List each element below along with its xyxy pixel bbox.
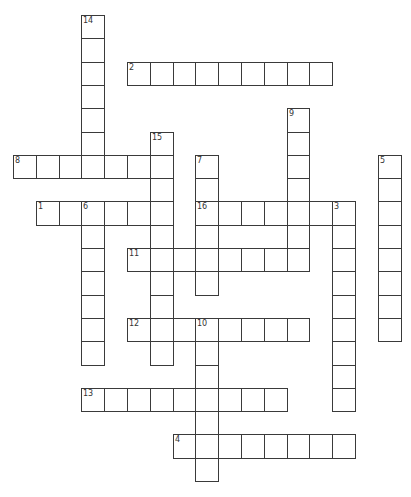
crossword-cell[interactable] [150,155,174,179]
crossword-cell[interactable] [264,201,288,226]
crossword-cell[interactable] [264,318,288,342]
crossword-cell[interactable] [332,365,356,389]
crossword-cell[interactable] [81,108,105,133]
crossword-cell[interactable]: 8 [13,155,37,179]
crossword-cell[interactable]: 14 [81,15,105,39]
crossword-cell[interactable] [173,62,196,86]
crossword-cell[interactable] [332,295,356,319]
crossword-cell[interactable] [309,434,333,459]
crossword-cell[interactable] [332,341,356,366]
crossword-cell[interactable] [127,201,151,226]
crossword-cell[interactable]: 4 [173,434,196,459]
crossword-cell[interactable] [218,318,242,342]
crossword-cell[interactable] [104,201,128,226]
crossword-cell[interactable] [173,248,196,272]
crossword-cell[interactable] [332,248,356,272]
crossword-cell[interactable] [104,388,128,412]
crossword-cell[interactable] [287,248,310,272]
crossword-cell[interactable] [287,132,310,156]
crossword-cell[interactable] [287,201,310,226]
crossword-cell[interactable] [378,318,402,342]
crossword-cell[interactable] [264,434,288,459]
crossword-cell[interactable]: 5 [378,155,402,179]
crossword-cell[interactable] [195,365,219,389]
crossword-cell[interactable] [150,248,174,272]
crossword-cell[interactable] [173,318,196,342]
crossword-cell[interactable] [287,62,310,86]
crossword-cell[interactable] [81,38,105,63]
crossword-cell[interactable] [218,201,242,226]
crossword-cell[interactable]: 1 [36,201,60,226]
crossword-cell[interactable] [150,341,174,366]
crossword-cell[interactable] [218,248,242,272]
crossword-cell[interactable] [332,434,356,459]
crossword-cell[interactable]: 6 [81,201,105,226]
crossword-cell[interactable] [150,295,174,319]
crossword-cell[interactable] [195,225,219,249]
crossword-cell[interactable] [378,178,402,202]
crossword-cell[interactable] [241,434,265,459]
crossword-cell[interactable] [287,434,310,459]
crossword-cell[interactable] [150,225,174,249]
crossword-cell[interactable] [332,271,356,296]
crossword-cell[interactable] [195,271,219,296]
crossword-cell[interactable] [287,155,310,179]
crossword-cell[interactable] [195,411,219,435]
crossword-cell[interactable] [241,318,265,342]
crossword-cell[interactable] [332,318,356,342]
crossword-cell[interactable] [264,388,288,412]
crossword-cell[interactable] [378,248,402,272]
crossword-cell[interactable] [264,62,288,86]
crossword-cell[interactable] [264,248,288,272]
crossword-cell[interactable] [287,225,310,249]
crossword-cell[interactable] [59,201,82,226]
crossword-cell[interactable] [195,388,219,412]
crossword-cell[interactable] [59,155,82,179]
crossword-cell[interactable] [287,318,310,342]
crossword-cell[interactable] [378,271,402,296]
crossword-cell[interactable] [195,341,219,366]
crossword-cell[interactable]: 9 [287,108,310,133]
crossword-cell[interactable] [218,434,242,459]
crossword-cell[interactable] [150,318,174,342]
crossword-cell[interactable] [195,434,219,459]
crossword-cell[interactable] [218,388,242,412]
crossword-cell[interactable] [127,388,151,412]
crossword-cell[interactable] [81,295,105,319]
crossword-cell[interactable] [173,388,196,412]
crossword-cell[interactable] [81,225,105,249]
crossword-cell[interactable] [150,388,174,412]
crossword-cell[interactable] [81,341,105,366]
crossword-cell[interactable] [332,388,356,412]
crossword-cell[interactable]: 15 [150,132,174,156]
crossword-cell[interactable] [150,178,174,202]
crossword-cell[interactable]: 11 [127,248,151,272]
crossword-cell[interactable] [127,155,151,179]
crossword-cell[interactable]: 16 [195,201,219,226]
crossword-cell[interactable] [195,178,219,202]
crossword-cell[interactable] [195,248,219,272]
crossword-cell[interactable]: 3 [332,201,356,226]
crossword-cell[interactable] [81,318,105,342]
crossword-cell[interactable] [195,62,219,86]
crossword-cell[interactable] [36,155,60,179]
crossword-cell[interactable] [309,201,333,226]
crossword-cell[interactable] [150,62,174,86]
crossword-cell[interactable] [332,225,356,249]
crossword-cell[interactable] [241,201,265,226]
crossword-cell[interactable] [241,388,265,412]
crossword-cell[interactable]: 2 [127,62,151,86]
crossword-cell[interactable]: 10 [195,318,219,342]
crossword-cell[interactable] [81,271,105,296]
crossword-cell[interactable] [241,62,265,86]
crossword-cell[interactable] [287,178,310,202]
crossword-cell[interactable] [218,62,242,86]
crossword-cell[interactable] [81,62,105,86]
crossword-cell[interactable] [81,132,105,156]
crossword-cell[interactable]: 12 [127,318,151,342]
crossword-cell[interactable]: 13 [81,388,105,412]
crossword-cell[interactable] [378,225,402,249]
crossword-cell[interactable] [378,201,402,226]
crossword-cell[interactable] [195,458,219,482]
crossword-cell[interactable] [81,248,105,272]
